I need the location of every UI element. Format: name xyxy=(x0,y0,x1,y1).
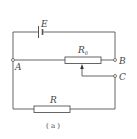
node-b-label: B xyxy=(118,56,126,66)
bottom-wire xyxy=(13,62,115,110)
rheostat-body xyxy=(65,57,101,64)
battery-label: E xyxy=(40,19,48,29)
circuit-diagram: E R0 A B C R ( a ) xyxy=(0,0,137,139)
node-a-label: A xyxy=(14,62,22,72)
resistor-body xyxy=(34,106,70,113)
slider-wire xyxy=(82,67,114,76)
node-c-terminal xyxy=(114,75,117,78)
node-b-terminal xyxy=(114,59,117,62)
resistor-label: R xyxy=(49,95,57,105)
top-wire-left xyxy=(13,32,38,60)
figure-caption: ( a ) xyxy=(46,122,60,130)
slider-arrow-icon xyxy=(80,64,84,69)
rheostat-label: R0 xyxy=(77,45,89,56)
node-c-label: C xyxy=(119,72,126,82)
